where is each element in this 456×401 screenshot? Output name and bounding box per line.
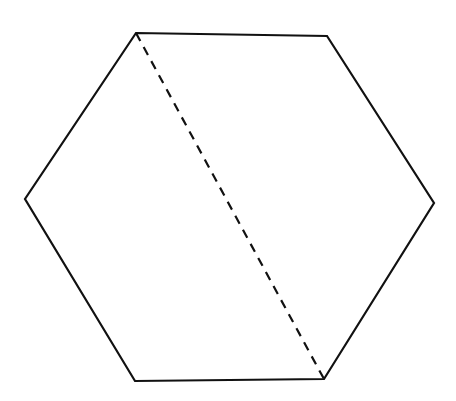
dashed-diagonal-line bbox=[136, 33, 324, 379]
diagram-canvas bbox=[0, 0, 456, 401]
